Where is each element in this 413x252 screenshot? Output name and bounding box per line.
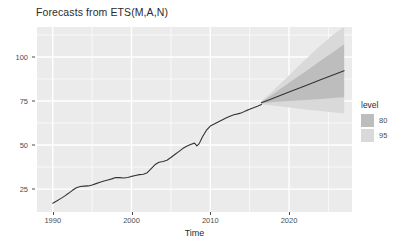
observed-series-line [53, 105, 262, 204]
y-tick-mark [32, 145, 35, 146]
x-tick-label: 1990 [44, 216, 61, 225]
legend: level 8095 [361, 100, 411, 143]
major-gridlines [37, 27, 352, 212]
legend-item[interactable]: 80 [361, 113, 411, 128]
x-tick-mark [53, 212, 54, 215]
legend-title: level [361, 100, 411, 110]
legend-items: 8095 [361, 113, 411, 143]
forecast-chart: Forecasts from ETS(M,A,N) 255075100 Time… [0, 0, 413, 252]
plot-panel [37, 27, 352, 212]
plot-svg [37, 27, 352, 212]
x-tick-label: 2010 [202, 216, 219, 225]
y-tick-mark [32, 101, 35, 102]
y-tick-label: 50 [20, 141, 28, 150]
x-tick-label: 2020 [281, 216, 298, 225]
x-tick-mark [289, 212, 290, 215]
interval-band-80 [261, 44, 344, 103]
y-tick-label: 100 [15, 52, 28, 61]
y-tick-mark [32, 189, 35, 190]
legend-key-swatch [361, 129, 374, 142]
y-tick-label: 25 [20, 185, 28, 194]
legend-label: 80 [379, 116, 387, 125]
legend-item[interactable]: 95 [361, 128, 411, 143]
legend-key-swatch [361, 114, 374, 127]
minor-gridlines [37, 27, 352, 212]
x-tick-label: 2000 [123, 216, 140, 225]
y-tick-label: 75 [20, 97, 28, 106]
x-tick-mark [132, 212, 133, 215]
y-tick-mark [32, 56, 35, 57]
x-tick-mark [210, 212, 211, 215]
x-axis-title: Time [37, 228, 352, 238]
page-title: Forecasts from ETS(M,A,N) [36, 6, 168, 18]
legend-label: 95 [379, 131, 387, 140]
y-axis: 255075100 [0, 0, 28, 252]
